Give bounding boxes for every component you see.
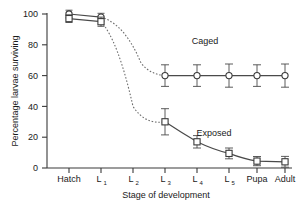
y-tick-label-80: 80	[28, 40, 38, 50]
survival-chart-figure: 0 20 40 60 80 100 Hatch L 1 L 2 L 3	[0, 0, 297, 207]
caged-dotted-gap	[101, 17, 165, 76]
x-ticks-group	[69, 168, 285, 173]
caged-series-label: Caged	[192, 36, 219, 46]
exposed-point-hatch	[66, 16, 72, 22]
exposed-error-bars	[66, 15, 290, 167]
exposed-series-label: Exposed	[196, 128, 231, 138]
x-label-l5-subscript: 5	[232, 180, 236, 186]
y-tick-label-20: 20	[28, 132, 38, 142]
axes-group	[47, 13, 292, 168]
caged-point-l3	[162, 73, 168, 79]
exposed-dotted-gap	[101, 22, 165, 123]
x-label-pupa: Pupa	[246, 174, 267, 184]
x-label-adult: Adult	[275, 174, 296, 184]
exposed-point-adult	[282, 159, 288, 165]
series-exposed: Exposed	[66, 15, 290, 167]
y-ticks-group: 0 20 40 60 80 100	[23, 9, 47, 173]
x-label-l3-subscript: 3	[168, 180, 172, 186]
x-label-l3: L	[160, 174, 165, 184]
caged-line-segment-start	[69, 14, 101, 17]
x-label-l4: L	[192, 174, 197, 184]
exposed-point-l5	[226, 150, 232, 156]
exposed-point-l1	[98, 19, 104, 25]
exposed-line-segment-start	[69, 19, 101, 22]
caged-point-l5	[226, 73, 232, 79]
exposed-markers	[66, 16, 288, 165]
exposed-point-l4	[194, 139, 200, 145]
x-label-l2: L	[128, 174, 133, 184]
x-label-l1-subscript: 1	[104, 180, 108, 186]
y-tick-label-0: 0	[33, 163, 38, 173]
x-tick-labels-group: Hatch L 1 L 2 L 3 L 4 L 5 Pupa Adult	[57, 174, 296, 186]
x-label-l5: L	[224, 174, 229, 184]
chart-svg: 0 20 40 60 80 100 Hatch L 1 L 2 L 3	[0, 0, 297, 207]
caged-point-l4	[194, 73, 200, 79]
y-axis-title: Percentage larvae surviving	[10, 35, 20, 146]
x-label-l2-subscript: 2	[136, 180, 140, 186]
caged-point-adult	[282, 73, 288, 79]
exposed-point-l3	[162, 119, 168, 125]
y-tick-label-60: 60	[28, 71, 38, 81]
y-tick-label-40: 40	[28, 102, 38, 112]
y-tick-label-100: 100	[23, 9, 38, 19]
exposed-point-pupa	[254, 158, 260, 164]
caged-point-pupa	[254, 73, 260, 79]
x-axis-title: Stage of development	[122, 190, 210, 200]
x-label-l1: L	[96, 174, 101, 184]
x-label-hatch: Hatch	[57, 174, 81, 184]
x-label-l4-subscript: 4	[200, 180, 204, 186]
